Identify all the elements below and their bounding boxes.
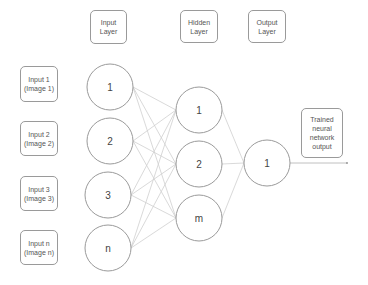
hidden-node-1-label: 1 <box>196 105 202 116</box>
input-box-2: Input 2 (Image 2) <box>20 121 58 156</box>
hidden-node-m-label: m <box>195 213 203 224</box>
output-node-1-label: 1 <box>264 158 270 169</box>
hidden-node-2-label: 2 <box>196 159 202 170</box>
input-node-2-label: 2 <box>107 136 113 147</box>
input-box-1: Input 1 (Image 1) <box>20 66 58 102</box>
input-node-1-label: 1 <box>107 82 113 93</box>
output-layer-header: Output Layer <box>248 10 286 43</box>
input-layer-header: Input Layer <box>90 10 127 44</box>
input-node-3-label: 3 <box>105 190 111 201</box>
trained-output-box: Trained neural network output <box>301 108 343 158</box>
input-node-n-label: n <box>105 243 111 254</box>
hidden-layer-header: Hidden Layer <box>180 10 218 43</box>
input-box-3: Input 3 (Image 3) <box>20 176 58 211</box>
input-box-n: Input n (Image n) <box>20 230 58 265</box>
